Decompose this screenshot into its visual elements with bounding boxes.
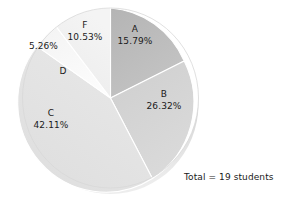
pie-label-b-name: B <box>139 89 189 101</box>
pie-label-f-percent: 10.53% <box>61 32 109 44</box>
pie-label-a-percent: 15.79% <box>110 36 160 48</box>
chart-total-note: Total = 19 students <box>184 172 274 182</box>
pie-label-d-percent: 5.26% <box>14 41 58 53</box>
pie-label-c: C 42.11% <box>24 108 78 131</box>
pie-label-b-percent: 26.32% <box>139 101 189 113</box>
pie-label-a: A 15.79% <box>110 24 160 47</box>
pie-label-d-name: D <box>52 66 74 78</box>
pie-label-c-percent: 42.11% <box>24 120 78 132</box>
pie-label-d-percent-outer: 5.26% <box>14 41 58 53</box>
pie-label-f-name: F <box>61 20 109 32</box>
pie-label-f: F 10.53% <box>61 20 109 43</box>
pie-label-c-name: C <box>24 108 78 120</box>
pie-label-d: D <box>52 66 74 78</box>
pie-label-b: B 26.32% <box>139 89 189 112</box>
pie-label-a-name: A <box>110 24 160 36</box>
pie-chart: A 15.79% B 26.32% C 42.11% D 5.26% F 10.… <box>0 0 287 218</box>
